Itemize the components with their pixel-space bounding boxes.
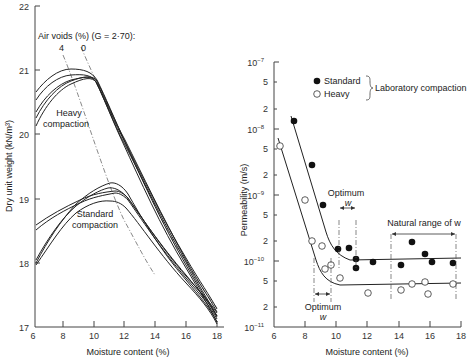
heavy-compaction-label: Heavy [56, 108, 82, 118]
y-tick-5e-10: 5 [263, 210, 268, 220]
legend-group-label: Laboratory compaction [375, 83, 467, 93]
x-tick-16: 16 [181, 331, 191, 341]
left-y-ticks: 22 21 20 19 18 17 [19, 2, 40, 333]
y-tick-17: 17 [19, 323, 29, 333]
heavy-compaction-label-2: compaction [43, 119, 89, 129]
y-tick-5e-11: 5 [263, 276, 268, 286]
y-tick-21: 21 [19, 66, 29, 76]
y-tick-1e-10: 10−10 [244, 256, 265, 267]
natural-range-label: Natural range of w [387, 218, 461, 228]
x-tick-14: 14 [394, 331, 404, 341]
x-tick-12: 12 [362, 331, 372, 341]
y-tick-2e-11: 2 [263, 302, 268, 312]
air-voids-0-label: 0 [81, 43, 86, 53]
left-x-label: Moisture content (%) [86, 347, 169, 357]
right-y-label: Permeability (m/s) [239, 164, 249, 237]
optimum-standard-marker: Optimum w [328, 188, 365, 268]
y-tick-19: 19 [19, 195, 29, 205]
y-tick-5e-9: 5 [263, 144, 268, 154]
optimum-standard-w: w [345, 198, 352, 208]
left-x-ticks: 6 8 10 12 14 16 18 [30, 321, 222, 341]
legend: Standard Heavy Laboratory compaction [314, 76, 467, 100]
figure: 22 21 20 19 18 17 6 8 10 12 14 16 18 Moi… [0, 0, 468, 360]
air-voids-4-label: 4 [59, 43, 64, 53]
right-x-ticks: 6 8 10 12 14 16 18 [271, 321, 466, 341]
air-voids-label: Air voids (%) (G = 2·70): [38, 31, 135, 41]
left-y-label: Dry unit weight (kN/m³) [4, 120, 14, 212]
optimum-standard-label: Optimum [328, 188, 365, 198]
y-tick-5e-8: 5 [263, 77, 268, 87]
y-tick-1e-11: 10−11 [244, 322, 264, 333]
optimum-heavy-w: w [320, 312, 327, 322]
x-tick-6: 6 [271, 331, 276, 341]
y-tick-20: 20 [19, 130, 29, 140]
x-tick-18: 18 [456, 331, 466, 341]
legend-heavy: Heavy [324, 89, 350, 99]
legend-brace [366, 76, 373, 100]
y-tick-1e-9: 10−9 [247, 190, 265, 201]
open-circle-icon [314, 91, 321, 98]
x-tick-18: 18 [212, 331, 222, 341]
standard-points [291, 118, 457, 272]
y-tick-1e-7: 10−7 [247, 57, 265, 68]
left-chart: 22 21 20 19 18 17 6 8 10 12 14 16 18 Moi… [4, 2, 224, 357]
standard-compaction-curves [36, 183, 217, 324]
right-chart: 10−7 5 2 10−8 5 2 10−9 5 2 10−10 5 2 10−… [239, 57, 467, 357]
standard-compaction-label: Standard [77, 209, 114, 219]
y-tick-1e-8: 10−8 [247, 124, 265, 135]
standard-fit-line [291, 116, 461, 260]
x-tick-16: 16 [425, 331, 435, 341]
air-voids-4-line [63, 55, 155, 275]
y-tick-2e-8: 2 [263, 104, 268, 114]
right-x-label: Moisture content (%) [325, 347, 408, 357]
y-tick-2e-9: 2 [263, 170, 268, 180]
y-tick-18: 18 [19, 259, 29, 269]
x-tick-8: 8 [60, 331, 65, 341]
y-tick-22: 22 [19, 2, 29, 12]
x-tick-12: 12 [119, 331, 129, 341]
air-voids-0-line [81, 47, 217, 308]
x-tick-6: 6 [30, 331, 35, 341]
optimum-heavy-label: Optimum [305, 302, 342, 312]
x-tick-8: 8 [302, 331, 307, 341]
legend-standard: Standard [324, 76, 361, 86]
x-tick-10: 10 [331, 331, 341, 341]
standard-compaction-label-2: compaction [72, 220, 118, 230]
x-tick-10: 10 [89, 331, 99, 341]
y-tick-2e-10: 2 [263, 236, 268, 246]
filled-circle-icon [314, 78, 321, 85]
x-tick-14: 14 [150, 331, 160, 341]
